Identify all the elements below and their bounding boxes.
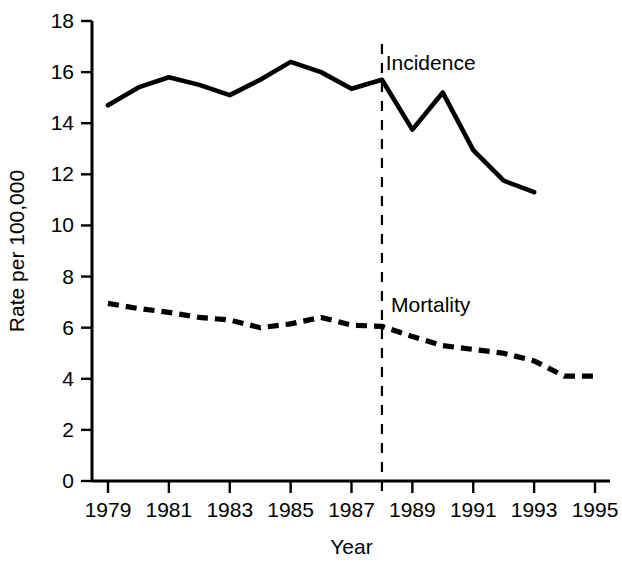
y-tick-label: 8 bbox=[62, 265, 74, 288]
rate-per-100000-line-chart: 024681012141618 197919811983198519871989… bbox=[0, 0, 622, 565]
incidence-label: Incidence bbox=[386, 51, 476, 74]
x-tick-label: 1987 bbox=[328, 498, 375, 521]
y-axis-title: Rate per 100,000 bbox=[5, 170, 28, 332]
y-tick-label: 14 bbox=[51, 111, 75, 134]
x-tick-label: 1991 bbox=[450, 498, 497, 521]
y-tick-label: 10 bbox=[51, 213, 74, 236]
y-tick-label: 6 bbox=[62, 316, 74, 339]
data-series-group bbox=[108, 62, 595, 376]
x-axis-title: Year bbox=[330, 535, 372, 558]
x-tick-label: 1995 bbox=[572, 498, 619, 521]
series-line-mortality bbox=[108, 303, 595, 376]
x-tick-label: 1981 bbox=[146, 498, 193, 521]
x-tick-label: 1993 bbox=[511, 498, 558, 521]
series-line-incidence bbox=[108, 62, 534, 192]
chart-container: 024681012141618 197919811983198519871989… bbox=[0, 0, 622, 565]
y-tick-label: 2 bbox=[62, 418, 74, 441]
x-tick-label: 1983 bbox=[206, 498, 253, 521]
x-tick-label: 1985 bbox=[267, 498, 314, 521]
y-tick-label: 18 bbox=[51, 9, 74, 32]
y-tick-label: 16 bbox=[51, 60, 74, 83]
x-axis: 197919811983198519871989199119931995 bbox=[85, 481, 619, 521]
mortality-label: Mortality bbox=[391, 293, 471, 316]
x-tick-label: 1989 bbox=[389, 498, 436, 521]
y-axis: 024681012141618 bbox=[51, 9, 92, 492]
y-tick-label: 4 bbox=[62, 367, 74, 390]
y-tick-label: 12 bbox=[51, 162, 74, 185]
series-annotations: IncidenceMortality bbox=[386, 51, 476, 317]
x-tick-label: 1979 bbox=[85, 498, 132, 521]
y-tick-label: 0 bbox=[62, 469, 74, 492]
